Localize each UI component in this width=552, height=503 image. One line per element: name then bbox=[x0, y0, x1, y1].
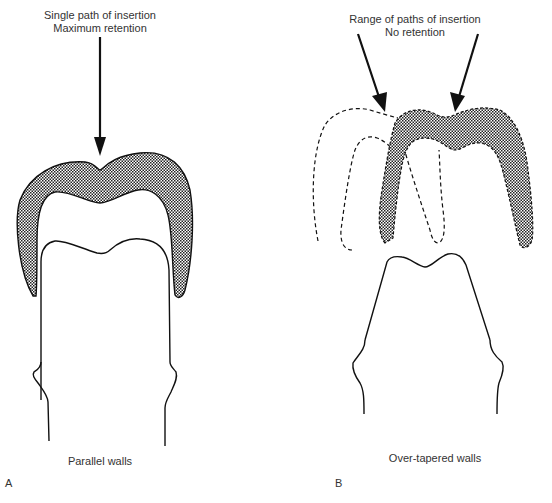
panel-a-annotation: Single path of insertion Maximum retenti… bbox=[40, 9, 160, 35]
panel-a-diagram bbox=[17, 37, 192, 446]
arrowhead-icon bbox=[372, 92, 387, 112]
figure-canvas bbox=[0, 0, 552, 503]
panel-a-caption: Parallel walls bbox=[60, 455, 140, 468]
arrowhead-icon bbox=[450, 92, 465, 112]
crown-displaced-inner-dashed bbox=[402, 141, 444, 243]
insertion-arrow-right bbox=[458, 34, 478, 100]
crown-over-tapered bbox=[379, 108, 532, 248]
arrowhead-icon bbox=[94, 137, 106, 156]
panel-b-annotation-line2: No retention bbox=[340, 26, 490, 39]
panel-a-letter: A bbox=[5, 477, 12, 489]
panel-b-caption: Over-tapered walls bbox=[380, 452, 490, 465]
tooth-root-right bbox=[165, 362, 177, 446]
panel-a-annotation-line2: Maximum retention bbox=[40, 22, 160, 35]
tooth-root-right bbox=[490, 340, 503, 414]
panel-a-annotation-line1: Single path of insertion bbox=[40, 9, 160, 22]
insertion-arrow-left bbox=[358, 34, 380, 100]
tooth-preparation-parallel bbox=[41, 239, 170, 400]
panel-b-annotation-line1: Range of paths of insertion bbox=[340, 13, 490, 26]
panel-b-annotation: Range of paths of insertion No retention bbox=[340, 13, 490, 39]
tooth-preparation-tapered bbox=[365, 254, 490, 340]
panel-b-letter: B bbox=[335, 477, 342, 489]
crown-parallel bbox=[17, 153, 192, 298]
tooth-root-left bbox=[353, 340, 365, 414]
panel-b-diagram bbox=[313, 34, 533, 414]
